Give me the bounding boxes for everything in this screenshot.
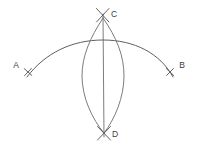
geometric-construction-figure: A B C D xyxy=(0,0,198,151)
label-point-d: D xyxy=(112,129,118,139)
main-arc-ab xyxy=(27,40,173,77)
lens-right-arc xyxy=(103,18,124,133)
construction-canvas: A B C D xyxy=(0,0,198,151)
label-point-c: C xyxy=(111,9,117,19)
lens-left-arc xyxy=(82,18,104,133)
center-line-cd xyxy=(103,14,104,137)
label-point-b: B xyxy=(179,60,185,70)
label-point-a: A xyxy=(13,60,19,70)
tick-mark-b xyxy=(166,68,174,75)
